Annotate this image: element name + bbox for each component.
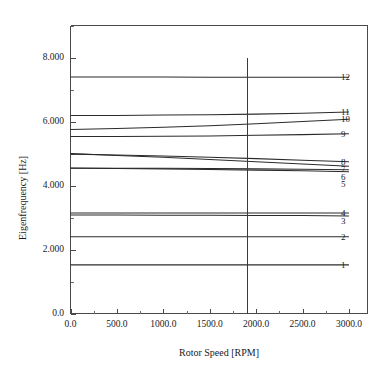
x-tick-label: 1000.0: [150, 320, 176, 330]
y-tick-label: 8.000: [10, 53, 64, 63]
curve-label-10: 10: [341, 115, 350, 124]
x-tick-label: 500.0: [106, 320, 127, 330]
y-tick-label: 2.000: [10, 245, 64, 255]
campbell-diagram-figure: 0.02.0004.0006.0008.000 0.0500.01000.015…: [0, 0, 380, 369]
y-tick-label: 6.000: [10, 117, 64, 127]
y-tick-label: 0.0: [10, 309, 64, 319]
curve-label-12: 12: [341, 73, 350, 82]
mode-curves: [71, 77, 349, 265]
curve-label-3: 3: [341, 216, 346, 225]
mode-curve-8: [71, 154, 349, 162]
x-tick-label: 0.0: [65, 320, 77, 330]
curve-label-2: 2: [341, 232, 346, 241]
x-tick-label: 3000.0: [336, 320, 362, 330]
curve-label-5: 5: [341, 180, 346, 189]
x-tick-label: 1500.0: [197, 320, 223, 330]
x-tick-label: 2500.0: [289, 320, 315, 330]
mode-curve-11: [71, 112, 349, 116]
x-tick-label: 2000.0: [243, 320, 269, 330]
y-axis-title: Eigenfrequency [Hz]: [18, 156, 28, 240]
curve-label-9: 9: [341, 129, 346, 138]
mode-curve-9: [71, 134, 349, 137]
mode-curve-10: [71, 119, 349, 129]
mode-curve-3: [71, 215, 349, 216]
x-axis-title: Rotor Speed [RPM]: [179, 348, 259, 358]
curve-label-1: 1: [341, 260, 346, 269]
